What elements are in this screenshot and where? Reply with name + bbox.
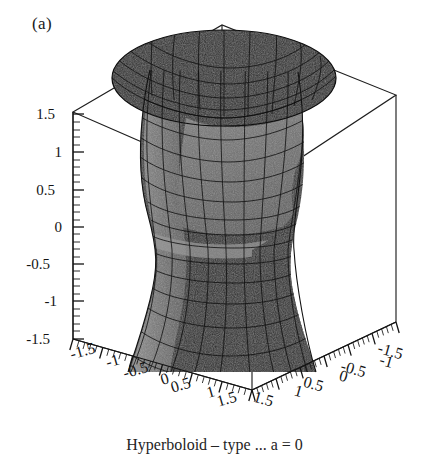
axis-tick-label: 0.5 <box>169 374 193 396</box>
axis-minor-tick <box>319 358 321 365</box>
axis-minor-tick <box>286 374 288 381</box>
axis-minor-tick <box>266 383 268 390</box>
axis-major-tick <box>324 356 327 367</box>
axis-minor-tick <box>202 376 204 383</box>
axis-tick-label: 1.5 <box>215 388 239 410</box>
axis-minor-tick <box>334 351 336 358</box>
axis-minor-tick <box>338 349 340 356</box>
axis-minor-tick <box>386 327 388 334</box>
axis-tick-label: -0.5 <box>121 358 150 381</box>
axis-minor-tick <box>238 387 240 394</box>
axis-major-tick <box>348 345 351 356</box>
axis-minor-tick <box>290 372 292 379</box>
axis-minor-tick <box>214 380 216 387</box>
axis-minor-tick <box>196 375 198 382</box>
axis-major-tick <box>100 348 103 359</box>
axis-tick-label: 1.5 <box>36 106 55 122</box>
axis-tick-label: 1 <box>55 144 63 160</box>
axis-minor-tick <box>367 336 369 343</box>
axis-minor-tick <box>329 354 331 361</box>
axis-minor-tick <box>343 347 345 354</box>
axis-minor-tick <box>377 331 379 338</box>
axis-minor-tick <box>382 329 384 336</box>
axis-minor-tick <box>119 353 121 360</box>
figure-caption: Hyperboloid – type ... a = 0 <box>0 436 429 454</box>
axis-minor-tick <box>358 340 360 347</box>
axis-tick-label: 1.5 <box>252 388 276 410</box>
axis-major-tick <box>372 333 375 344</box>
axis-tick-label: -1 <box>104 351 121 371</box>
axis-tick-label: 0 <box>55 219 63 235</box>
axis-minor-tick <box>281 376 283 383</box>
axis-tick-label: 0.5 <box>302 373 326 395</box>
z-axis: 1.510.50-0.5-1-1.5 <box>26 106 84 347</box>
axis-minor-tick <box>391 324 393 331</box>
axis-tick-label: 0.5 <box>36 182 55 198</box>
axis-major-tick <box>396 322 399 333</box>
z-axis-major-ticks <box>73 114 84 339</box>
axis-tick-label: -1 <box>45 293 58 309</box>
axis-tick-label: -0.5 <box>26 256 50 272</box>
axis-minor-tick <box>125 354 127 361</box>
axis-minor-tick <box>244 388 246 395</box>
z-axis-tick-labels: 1.510.50-0.5-1-1.5 <box>26 106 62 347</box>
axis-minor-tick <box>271 381 273 388</box>
axis-major-tick <box>276 379 279 390</box>
axis-tick-label: -1.5 <box>26 331 50 347</box>
axis-minor-tick <box>353 342 355 349</box>
axis-minor-tick <box>362 338 364 345</box>
